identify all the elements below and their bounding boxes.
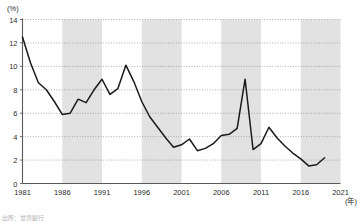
x-tick-label: 2006 [203,188,239,197]
y-tick-label: 8 [4,85,18,94]
y-tick-label: 4 [4,132,18,141]
x-tick-label: 1986 [44,188,80,197]
x-tick-label: 2016 [283,188,319,197]
recession-shading-group [62,20,340,184]
y-tick-label: 14 [4,15,18,24]
source-note: 出所：世界銀行 [2,214,44,222]
recession-band [142,20,182,184]
x-tick-label: 1996 [124,188,160,197]
y-tick-label: 12 [4,38,18,47]
y-tick-label: 2 [4,156,18,165]
chart-figure: (%) 02468101214 198119861991199620012006… [0,0,361,222]
y-tick-label: 10 [4,62,18,71]
x-tick-label: 2001 [164,188,200,197]
x-tick-label: 1991 [84,188,120,197]
x-tick-label: 1981 [5,188,41,197]
x-axis-unit-label: (年) [345,195,357,206]
y-tick-label: 6 [4,109,18,118]
x-tick-label: 2011 [243,188,279,197]
y-axis-unit-label: (%) [7,4,19,13]
recession-band [301,20,341,184]
